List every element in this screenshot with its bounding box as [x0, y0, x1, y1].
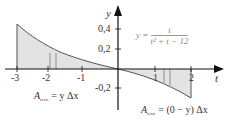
- y-axis-arrow-icon: [114, 5, 122, 16]
- x-tick-label: 2: [189, 73, 194, 83]
- y-axis-label: y: [106, 8, 111, 19]
- formula-numerator: t: [151, 25, 189, 36]
- formula-fraction: t t² + t − 12: [151, 25, 189, 46]
- formula-lhs: y =: [136, 30, 148, 40]
- x-tick-label: 1: [153, 73, 158, 83]
- area-expression: = (0 − y) Δx: [156, 104, 208, 115]
- area-subscript: rect.: [40, 97, 49, 102]
- area-subscript: rect.: [147, 111, 156, 116]
- x-tick-label: -1: [77, 73, 85, 83]
- right-area-annotation: Arect. = (0 − y) Δx: [141, 104, 208, 116]
- function-formula: y = t t² + t − 12: [136, 25, 188, 46]
- x-tick-label: -2: [42, 73, 50, 83]
- y-tick-label: -0,2: [95, 83, 111, 93]
- x-axis-label: t: [215, 73, 218, 84]
- x-tick-label: -3: [11, 73, 19, 83]
- left-area-annotation: Arect. = y Δx: [34, 90, 78, 102]
- y-tick-label: 0,2: [98, 44, 111, 54]
- area-expression: = y Δx: [49, 90, 79, 101]
- formula-denominator: t² + t − 12: [151, 36, 189, 46]
- y-tick-label: 0,4: [98, 24, 111, 34]
